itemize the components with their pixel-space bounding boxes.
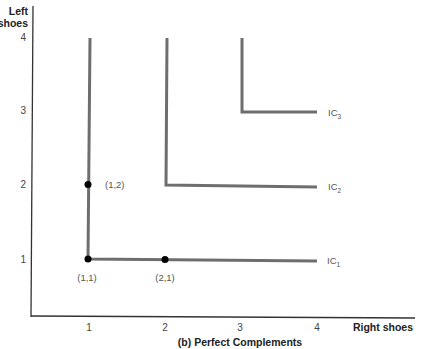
y-tick-4: 4 xyxy=(20,32,26,43)
point-2-1 xyxy=(162,256,169,263)
x-tick-4: 4 xyxy=(314,322,320,333)
x-tick-2: 2 xyxy=(162,322,168,333)
point-label-1-1: (1,1) xyxy=(77,272,97,283)
ic2-label: IC2 xyxy=(328,181,342,194)
x-axis-label: Right shoes xyxy=(353,321,413,333)
point-1-2 xyxy=(85,181,92,188)
point-1-1 xyxy=(85,256,92,263)
y-tick-2: 2 xyxy=(20,179,26,190)
x-tick-1: 1 xyxy=(86,322,92,333)
y-axis-label-line2: shoes xyxy=(0,17,28,29)
y-axis-label-line1: Left xyxy=(9,5,29,17)
chart-caption: (b) Perfect Complements xyxy=(178,336,302,348)
x-tick-3: 3 xyxy=(237,322,243,333)
indifference-curve-ic3 xyxy=(242,38,317,112)
y-axis xyxy=(31,6,33,317)
point-label-2-1: (2,1) xyxy=(155,272,175,283)
indifference-curve-ic1 xyxy=(88,38,317,261)
y-tick-1: 1 xyxy=(20,254,26,265)
ic1-label: IC1 xyxy=(327,255,341,268)
point-label-1-2: (1,2) xyxy=(105,179,125,190)
ic3-label: IC3 xyxy=(328,107,342,120)
x-axis xyxy=(31,316,415,318)
chart-canvas: Left shoes 4 3 2 1 1 2 3 4 Right shoes (… xyxy=(0,0,425,349)
y-tick-3: 3 xyxy=(20,105,26,116)
